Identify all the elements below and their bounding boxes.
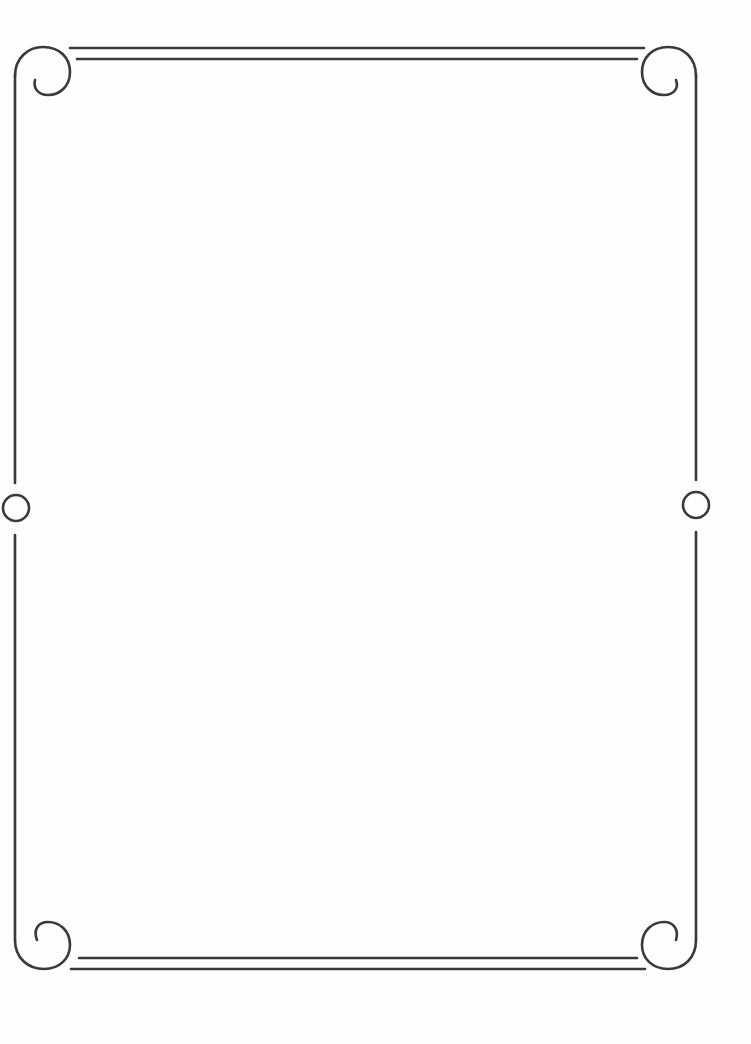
- right-ring-ornament-icon: [683, 492, 709, 518]
- left-ring-ornament-icon: [3, 495, 29, 521]
- top-double-line: [70, 48, 644, 59]
- content-area: [40, 80, 680, 940]
- bottom-double-line: [71, 958, 645, 969]
- bordered-page: [0, 0, 751, 1044]
